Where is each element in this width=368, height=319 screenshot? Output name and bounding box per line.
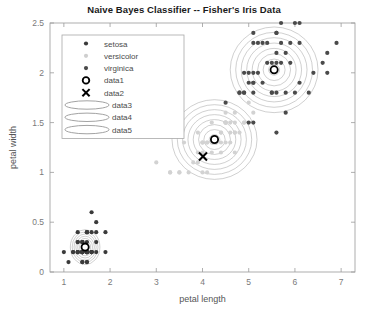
data-point bbox=[76, 230, 80, 234]
data-point bbox=[334, 41, 338, 45]
data-point bbox=[242, 91, 246, 95]
data-point bbox=[103, 230, 107, 234]
data-point bbox=[233, 121, 237, 125]
legend-label: versicolor bbox=[104, 52, 139, 61]
data-point bbox=[94, 230, 98, 234]
data-point bbox=[279, 61, 283, 65]
data-point bbox=[284, 111, 288, 115]
legend-label: data2 bbox=[104, 89, 125, 98]
legend-label: data5 bbox=[112, 126, 133, 135]
data-point bbox=[200, 140, 204, 144]
data-point bbox=[71, 250, 75, 254]
data-point bbox=[196, 160, 200, 164]
data-point bbox=[205, 170, 209, 174]
data-point bbox=[270, 91, 274, 95]
data-point bbox=[80, 260, 84, 264]
data-point bbox=[228, 121, 232, 125]
data-point bbox=[191, 160, 195, 164]
data-point bbox=[94, 250, 98, 254]
class-center-marker bbox=[211, 136, 218, 143]
data-point bbox=[62, 250, 66, 254]
legend-marker-circle bbox=[83, 77, 90, 84]
data-point bbox=[311, 71, 315, 75]
y-tick-label: 1.5 bbox=[32, 118, 44, 128]
class-center-marker bbox=[82, 244, 89, 251]
data-point bbox=[260, 81, 264, 85]
legend-box bbox=[62, 35, 184, 138]
data-point bbox=[251, 111, 255, 115]
data-point bbox=[260, 41, 264, 45]
data-point bbox=[219, 130, 223, 134]
data-point bbox=[200, 170, 204, 174]
data-point bbox=[274, 51, 278, 55]
data-point bbox=[325, 71, 329, 75]
legend-label: data3 bbox=[112, 101, 133, 110]
data-point bbox=[233, 130, 237, 134]
data-point bbox=[187, 170, 191, 174]
data-point bbox=[103, 250, 107, 254]
data-point bbox=[325, 51, 329, 55]
data-point bbox=[224, 121, 228, 125]
data-point bbox=[251, 41, 255, 45]
data-point bbox=[94, 220, 98, 224]
data-point bbox=[251, 121, 255, 125]
data-point bbox=[228, 130, 232, 134]
data-point bbox=[307, 91, 311, 95]
data-point bbox=[89, 250, 93, 254]
data-point bbox=[219, 140, 223, 144]
y-axis-label: petal width bbox=[8, 126, 18, 169]
data-point bbox=[224, 140, 228, 144]
legend-marker-dot bbox=[84, 54, 88, 58]
data-point bbox=[274, 130, 278, 134]
x-axis-label: petal length bbox=[179, 294, 226, 304]
data-point bbox=[274, 61, 278, 65]
data-point bbox=[66, 260, 70, 264]
data-point bbox=[154, 160, 158, 164]
data-point bbox=[288, 41, 292, 45]
legend[interactable]: setosaversicolorvirginicadata1data2data3… bbox=[62, 35, 184, 138]
legend-marker-dot bbox=[84, 66, 88, 70]
legend-label: setosa bbox=[104, 40, 128, 49]
data-point bbox=[94, 240, 98, 244]
data-point bbox=[196, 130, 200, 134]
data-point bbox=[76, 250, 80, 254]
data-point bbox=[205, 140, 209, 144]
data-point bbox=[251, 91, 255, 95]
data-point bbox=[321, 61, 325, 65]
data-point bbox=[76, 240, 80, 244]
legend-label: data4 bbox=[112, 113, 133, 122]
y-tick-label: 2 bbox=[39, 68, 44, 78]
x-tick-label: 6 bbox=[293, 277, 298, 287]
data-point bbox=[237, 91, 241, 95]
data-point bbox=[270, 61, 274, 65]
data-point bbox=[247, 81, 251, 85]
data-point bbox=[297, 21, 301, 25]
legend-label: data1 bbox=[104, 76, 125, 85]
data-point bbox=[288, 61, 292, 65]
data-point bbox=[297, 81, 301, 85]
data-point bbox=[256, 41, 260, 45]
data-point bbox=[85, 230, 89, 234]
legend-marker-dot bbox=[84, 41, 88, 45]
x-tick-label: 1 bbox=[61, 277, 66, 287]
data-point bbox=[224, 101, 228, 105]
data-point bbox=[210, 150, 214, 154]
data-point bbox=[89, 230, 93, 234]
legend-label: virginica bbox=[104, 64, 134, 73]
data-point bbox=[265, 41, 269, 45]
data-point bbox=[85, 260, 89, 264]
data-point bbox=[182, 140, 186, 144]
data-point bbox=[233, 111, 237, 115]
data-point bbox=[242, 121, 246, 125]
data-point bbox=[274, 91, 278, 95]
data-point bbox=[237, 130, 241, 134]
x-tick-label: 7 bbox=[339, 277, 344, 287]
data-point bbox=[219, 150, 223, 154]
x-tick-label: 5 bbox=[246, 277, 251, 287]
x-tick-label: 3 bbox=[154, 277, 159, 287]
y-tick-label: 2.5 bbox=[32, 18, 44, 28]
data-point bbox=[247, 101, 251, 105]
data-point bbox=[251, 71, 255, 75]
x-tick-label: 4 bbox=[200, 277, 205, 287]
y-tick-label: 0 bbox=[39, 267, 44, 277]
